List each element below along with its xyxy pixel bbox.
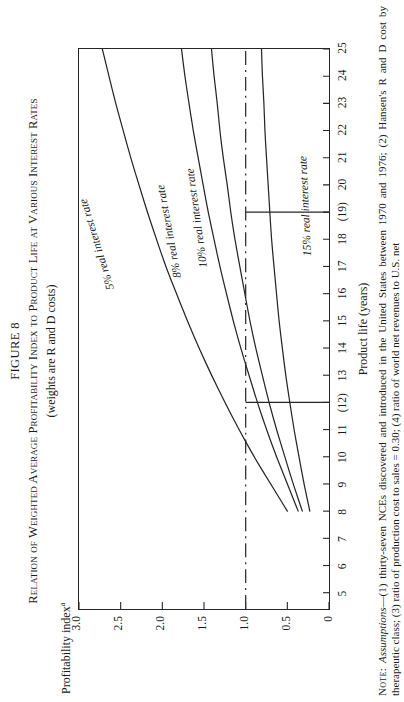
x-tick-label: 13: [336, 370, 348, 382]
figure-container: FIGURE 8 Relation of Weighted Average Pr…: [0, 0, 404, 702]
x-tick-label: 15: [336, 315, 348, 327]
series-curves-group: [102, 49, 309, 511]
x-tick-label: 17: [336, 261, 348, 273]
note-text: —(1) thirty-seven NCEs discovered and in…: [376, 6, 401, 696]
x-tick-label: 23: [336, 97, 348, 109]
y-tick-label: 1.5: [196, 616, 208, 650]
figure-number: FIGURE 8: [8, 0, 23, 702]
x-tick-label: 8: [336, 509, 348, 515]
x-tick-label: 6: [336, 563, 348, 569]
y-tick-label: 1.0: [238, 616, 250, 650]
series-curve-3: [262, 49, 310, 511]
note-label: Note:: [376, 668, 388, 696]
note-lead: Assumptions: [376, 607, 388, 663]
x-tick-label: 18: [336, 233, 348, 245]
y-tick-label: 2.0: [154, 616, 166, 650]
x-tick-label: (12): [336, 393, 348, 412]
reference-lines-group: [246, 49, 329, 609]
figure-note: Note: Assumptions—(1) thirty-seven NCEs …: [376, 6, 403, 696]
x-tick-label: (19): [336, 202, 348, 221]
x-axis-title: Product life (years): [356, 48, 371, 610]
y-tick-label: 3.0: [70, 616, 82, 650]
x-tick-label: 9: [336, 482, 348, 488]
series-curve-0: [102, 49, 287, 511]
x-tick-label: 22: [336, 124, 348, 136]
x-tick-label: 21: [336, 151, 348, 163]
figure-subtitle: (weights are R and D costs): [44, 0, 59, 702]
x-tick-label: 24: [336, 70, 348, 82]
rotated-page-canvas: FIGURE 8 Relation of Weighted Average Pr…: [0, 0, 404, 702]
figure-title: Relation of Weighted Average Profitabili…: [26, 0, 41, 702]
x-tick-label: 11: [336, 424, 348, 435]
y-axis-title-superscript: a: [58, 603, 67, 607]
y-tick-label: 0.5: [280, 616, 292, 650]
plot-area: [78, 48, 330, 610]
y-tick-label: 0: [322, 616, 334, 650]
axis-ticks-group: [79, 49, 329, 609]
series-curve-2: [212, 49, 303, 511]
y-tick-label: 2.5: [112, 616, 124, 650]
chart-svg: [79, 49, 329, 609]
x-tick-label: 16: [336, 288, 348, 300]
x-tick-label: 25: [336, 42, 348, 54]
x-tick-label: 14: [336, 342, 348, 354]
x-tick-label: 20: [336, 179, 348, 191]
x-tick-label: 10: [336, 451, 348, 463]
x-tick-label: 5: [336, 591, 348, 597]
x-tick-label: 7: [336, 536, 348, 542]
